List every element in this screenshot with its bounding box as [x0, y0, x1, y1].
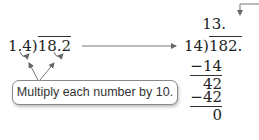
left-division-problem: 1.4)18.2 [8, 38, 71, 54]
right-divisor: 14 [184, 37, 203, 55]
callout-text: Multiply each number by 10. [17, 85, 173, 99]
step-remainder-0: 0 [162, 107, 222, 123]
division-bracket: ) [32, 37, 38, 55]
left-divisor: 1.4 [8, 37, 32, 55]
right-division-problem: 14)182. [184, 38, 242, 54]
quotient: 13. [166, 16, 226, 32]
step-subtract-14: −14 [162, 58, 222, 74]
callout-box: Multiply each number by 10. [12, 80, 178, 105]
right-dividend: 182. [209, 36, 242, 55]
callout-pointer-left-icon [29, 63, 38, 80]
callout-pointer-right-icon [40, 63, 54, 80]
bent-down-arrow-icon [240, 4, 259, 15]
left-dividend: 18.2 [38, 36, 71, 55]
